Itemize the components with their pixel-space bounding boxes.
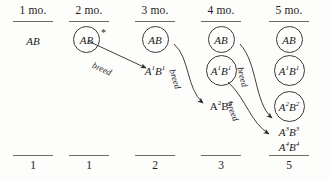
pair-ab-circled: AB xyxy=(208,26,235,53)
cell-2-ab: AB* xyxy=(56,26,122,53)
cell-5-a3b3: A3B3 xyxy=(256,125,322,138)
column-rule-top-4 xyxy=(201,21,241,22)
cell-5-a1b1: A1B1 xyxy=(256,55,322,86)
pair-a3b3: A3B3 xyxy=(279,127,299,138)
column-rule-bottom-2 xyxy=(69,155,109,156)
column-5-mo: 5 mo. AB A1B1 A2B2 A3B3 A4B4 5 xyxy=(256,0,322,182)
column-header-5: 5 mo. xyxy=(256,4,322,16)
cell-5-a2b2: A2B2 xyxy=(256,91,322,122)
column-count-3: 2 xyxy=(122,159,188,171)
column-rule-top-3 xyxy=(135,21,175,22)
pair-a2b2-circled: A2B2 xyxy=(274,91,305,122)
pair-ab-circled: AB xyxy=(73,26,100,53)
column-rule-top-2 xyxy=(69,21,109,22)
fibonacci-rabbit-diagram: 1 mo. AB 1 2 mo. AB* 1 3 mo. AB A1B1 2 4… xyxy=(0,0,330,182)
cell-4-ab: AB xyxy=(188,26,254,53)
column-rule-bottom-4 xyxy=(201,155,241,156)
column-count-5: 5 xyxy=(256,159,322,171)
column-rule-bottom-1 xyxy=(13,155,53,156)
pair-a4b4: A4B4 xyxy=(279,142,299,153)
pair-a1b1-circled: A1B1 xyxy=(206,55,237,86)
column-2-mo: 2 mo. AB* 1 xyxy=(56,0,122,182)
column-header-3: 3 mo. xyxy=(122,4,188,16)
column-rule-top-1 xyxy=(13,21,53,22)
cell-3-ab: AB xyxy=(122,26,188,53)
column-rule-bottom-3 xyxy=(135,155,175,156)
column-rule-bottom-5 xyxy=(269,155,309,156)
cell-5-ab: AB xyxy=(256,26,322,53)
column-count-4: 3 xyxy=(188,159,254,171)
column-count-2: 1 xyxy=(56,159,122,171)
pair-ab-circled: AB xyxy=(142,26,169,53)
pair-a1b1-circled: A1B1 xyxy=(274,55,305,86)
pair-a1b1: A1B1 xyxy=(145,66,165,77)
footnote-asterisk: * xyxy=(101,27,106,38)
column-4-mo: 4 mo. AB A1B1 A2B2 3 xyxy=(188,0,254,182)
column-rule-top-5 xyxy=(269,21,309,22)
pair-ab-circled: AB xyxy=(276,26,303,53)
cell-5-a4b4: A4B4 xyxy=(256,140,322,153)
column-header-4: 4 mo. xyxy=(188,4,254,16)
cell-4-a2b2: A2B2 xyxy=(188,99,254,112)
pair-ab: AB xyxy=(26,36,39,47)
column-3-mo: 3 mo. AB A1B1 2 xyxy=(122,0,188,182)
column-header-2: 2 mo. xyxy=(56,4,122,16)
